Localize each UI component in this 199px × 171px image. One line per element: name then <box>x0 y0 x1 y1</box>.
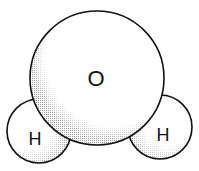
hydrogen-left-label: H <box>29 129 42 149</box>
water-molecule-diagram: O H H <box>0 0 199 171</box>
hydrogen-right-label: H <box>157 125 170 145</box>
oxygen-label: O <box>87 66 104 91</box>
molecule-svg: O H H <box>0 0 199 171</box>
